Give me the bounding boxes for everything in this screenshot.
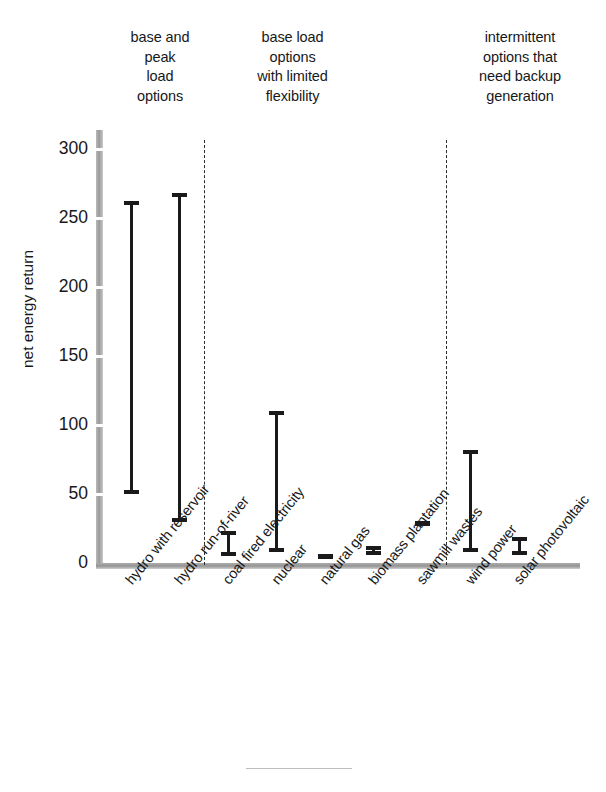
y-tick-label-150: 150 — [42, 347, 88, 365]
range-cap-lower-5 — [366, 551, 381, 555]
y-tick-label-300: 300 — [42, 140, 88, 158]
range-cap-lower-3 — [269, 548, 284, 552]
y-tick-label-50: 50 — [42, 485, 88, 503]
range-bar-0 — [130, 201, 133, 494]
range-cap-lower-2 — [221, 552, 236, 556]
plot-area — [98, 130, 576, 565]
y-tick-label-200: 200 — [42, 278, 88, 296]
range-cap-upper-1 — [172, 193, 187, 197]
net-energy-return-chart: base and peak load options base load opt… — [0, 0, 606, 792]
range-bar-1 — [178, 193, 181, 521]
footer-rule — [246, 768, 352, 769]
group-caption-base-load-limited-flexibility: base load options with limited flexibili… — [225, 28, 360, 106]
range-cap-lower-7 — [463, 548, 478, 552]
range-cap-upper-0 — [124, 201, 139, 205]
range-bar-7 — [469, 450, 472, 552]
range-cap-upper-7 — [463, 450, 478, 454]
group-caption-intermittent-backup: intermittent options that need backup ge… — [440, 28, 600, 106]
range-cap-upper-8 — [512, 537, 527, 541]
y-tick-label-100: 100 — [42, 416, 88, 434]
data-point-6 — [415, 521, 430, 526]
y-tick-label-250: 250 — [42, 209, 88, 227]
y-axis-tick-labels: 300250200150100500 — [42, 0, 88, 792]
range-cap-lower-0 — [124, 490, 139, 494]
group-divider-1 — [446, 140, 447, 565]
group-divider-0 — [204, 140, 205, 565]
range-cap-upper-3 — [269, 411, 284, 415]
range-cap-lower-1 — [172, 518, 187, 522]
range-cap-lower-8 — [512, 551, 527, 555]
y-tick-label-0: 0 — [42, 554, 88, 572]
range-bar-3 — [275, 411, 278, 552]
group-caption-base-and-peak-load: base and peak load options — [106, 28, 214, 106]
y-axis-title: net energy return — [19, 199, 37, 419]
range-cap-upper-2 — [221, 531, 236, 535]
